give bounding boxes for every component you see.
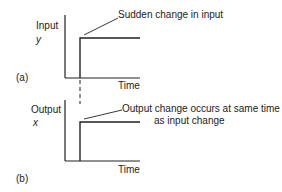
panel-b-step-curve: [80, 122, 140, 161]
panel-b-leader-line: [84, 110, 122, 119]
panel-a-axes: [65, 15, 140, 78]
panel-a-step-curve: [80, 38, 140, 78]
panel-b-y-symbol: x: [33, 117, 38, 128]
step-response-diagram: Input y (a) Time Sudden change in input …: [0, 0, 282, 192]
panel-a-leader-line: [84, 18, 118, 35]
panel-a-y-label: Input: [36, 20, 58, 31]
panel-a-annotation: Sudden change in input: [118, 9, 223, 20]
panel-a-tag: (a): [16, 72, 28, 83]
panel-b-annotation-line2: as input change: [154, 115, 225, 126]
panel-b-x-label: Time: [118, 164, 140, 175]
panel-b-y-label: Output: [31, 104, 61, 115]
panel-a-x-label: Time: [118, 80, 140, 91]
panel-a-y-symbol: y: [36, 34, 41, 45]
panel-b-tag: (b): [16, 173, 28, 184]
panel-b-annotation-line1: Output change occurs at same time: [122, 103, 280, 114]
